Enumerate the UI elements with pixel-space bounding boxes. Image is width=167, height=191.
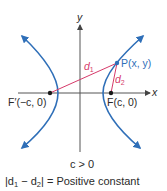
focus-f-prime-label: F′(−c, 0) bbox=[8, 96, 46, 108]
y-axis-label: y bbox=[76, 11, 83, 23]
hyperbola-diagram: x y P(x, y) F(c, 0) F′(−c, 0) d1 d2 c > … bbox=[0, 0, 167, 191]
focus-f-label: F(c, 0) bbox=[107, 96, 137, 108]
d2-label: d2 bbox=[115, 73, 125, 86]
hyperbola-left-branch bbox=[22, 36, 58, 93]
point-p bbox=[115, 61, 119, 65]
equation-caption: |d1 − d2| = Positive constant bbox=[5, 175, 140, 189]
focus-f-prime-point bbox=[48, 91, 52, 95]
focus-f-point bbox=[109, 91, 113, 95]
d1-label: d1 bbox=[84, 60, 94, 73]
point-p-label: P(x, y) bbox=[121, 57, 151, 69]
condition-caption: c > 0 bbox=[70, 158, 94, 170]
x-axis-label: x bbox=[151, 86, 158, 98]
